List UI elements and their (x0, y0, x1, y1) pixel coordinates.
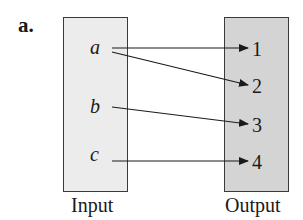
input-caption: Input (71, 194, 113, 217)
output-caption: Output (225, 194, 281, 217)
mapping-arrows (0, 0, 303, 220)
arrow-b-to-3 (112, 107, 248, 124)
arrow-a-to-2 (112, 52, 248, 85)
